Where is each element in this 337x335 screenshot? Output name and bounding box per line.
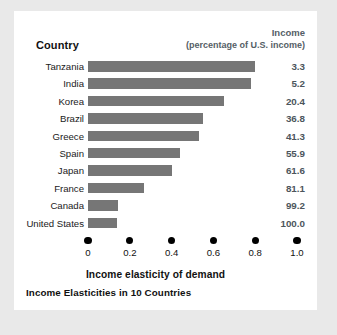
bar-track [88,76,297,93]
bar-track [88,163,297,180]
column-header-income-line1: Income [272,27,305,38]
bar-chart-plot-area: Tanzania3.3India5.2Korea20.4Brazil36.8Gr… [14,59,317,234]
bar-track [88,181,297,198]
bar [88,96,224,107]
x-axis-tick-label: 0.2 [116,247,144,258]
x-axis-tick-label: 1.0 [283,247,311,258]
bar-row-income-value: 100.0 [280,218,305,229]
x-axis: 00.20.40.60.81.0 [88,237,297,265]
bar-row-income-value: 99.2 [286,200,305,211]
bar-row-income-value: 36.8 [286,113,305,124]
bar [88,218,117,229]
x-axis-tick-dot-icon [168,237,175,244]
bar-row: Greece41.3 [14,129,317,146]
bar-track [88,94,297,111]
bar-row-country-label: India [14,78,84,89]
bar-row: Japan61.6 [14,163,317,180]
bar-row-country-label: Spain [14,148,84,159]
bar-row-income-value: 20.4 [286,96,305,107]
x-axis-tick-dot-icon [210,237,217,244]
bar-row: Brazil36.8 [14,111,317,128]
bar-row-country-label: Korea [14,96,84,107]
figure-caption: Income Elasticities in 10 Countries [26,287,191,298]
bar-row: Korea20.4 [14,94,317,111]
x-axis-tick-label: 0.8 [241,247,269,258]
bar-row-country-label: Japan [14,165,84,176]
bar-row-country-label: United States [14,218,84,229]
bar-row-income-value: 5.2 [291,78,305,89]
bar-track [88,198,297,215]
bar-row-country-label: Canada [14,200,84,211]
bar-row: United States100.0 [14,216,317,233]
bar-row-income-value: 81.1 [286,183,305,194]
bar-track [88,111,297,128]
table-header: Country Income (percentage of U.S. incom… [14,27,317,59]
bar [88,61,255,72]
column-header-income: Income (percentage of U.S. income) [186,27,305,51]
figure-card: Country Income (percentage of U.S. incom… [14,11,317,310]
bar [88,183,144,194]
x-axis-tick-dot-icon [84,237,91,244]
x-axis-tick-dot-icon [252,237,259,244]
x-axis-title: Income elasticity of demand [14,269,297,280]
bar-track [88,146,297,163]
bar-row: France81.1 [14,181,317,198]
x-axis-tick-label: 0.4 [158,247,186,258]
bar-row-country-label: Tanzania [14,61,84,72]
bar-row-income-value: 61.6 [286,165,305,176]
bar [88,148,180,159]
bar-track [88,59,297,76]
bar-row-income-value: 55.9 [286,148,305,159]
x-axis-tick-dot-icon [126,237,133,244]
bar [88,113,203,124]
bar-row: India5.2 [14,76,317,93]
bar [88,131,199,142]
x-axis-tick-dot-icon [293,237,300,244]
bar [88,165,172,176]
bar [88,200,118,211]
bar-row-country-label: Greece [14,131,84,142]
bar-row-country-label: France [14,183,84,194]
bar-row: Tanzania3.3 [14,59,317,76]
bar-row: Spain55.9 [14,146,317,163]
bar-row-income-value: 41.3 [286,131,305,142]
x-axis-tick-label: 0.6 [199,247,227,258]
bar-track [88,129,297,146]
bar-row-income-value: 3.3 [291,61,305,72]
column-header-country: Country [36,39,79,51]
bar-track [88,216,297,233]
column-header-income-line2: (percentage of U.S. income) [186,39,305,51]
bar-row-country-label: Brazil [14,113,84,124]
bar-row: Canada99.2 [14,198,317,215]
x-axis-tick-label: 0 [74,247,102,258]
bar [88,78,251,89]
